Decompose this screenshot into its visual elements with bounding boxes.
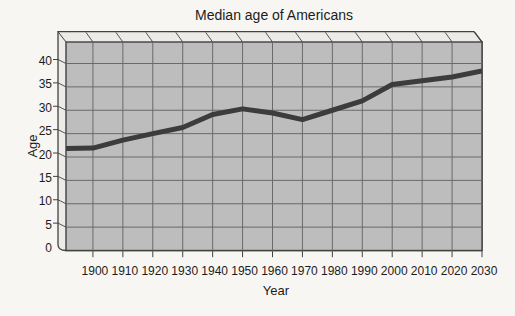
chart-page: 0510152025303540190019101920193019401950… (0, 0, 515, 316)
x-tick-label: 1960 (261, 264, 288, 278)
y-tick-label: 40 (39, 54, 53, 68)
y-tick-label: 20 (39, 148, 53, 162)
x-tick-label: 1950 (231, 264, 258, 278)
x-tick-label: 1920 (141, 264, 168, 278)
x-tick-label: 1900 (82, 264, 109, 278)
y-tick-label: 15 (39, 171, 53, 185)
y-tick-label: 0 (45, 241, 52, 255)
x-tick-label: 1940 (201, 264, 228, 278)
y-tick-label: 35 (39, 77, 53, 91)
x-tick-label: 1990 (351, 264, 378, 278)
y-axis-title: Age (25, 134, 40, 157)
y-tick-label: 10 (39, 194, 53, 208)
y-tick-label: 5 (45, 218, 52, 232)
x-tick-label: 2030 (471, 264, 498, 278)
x-tick-label: 1980 (321, 264, 348, 278)
median-age-line-chart: 0510152025303540190019101920193019401950… (0, 0, 515, 316)
x-tick-label: 2020 (441, 264, 468, 278)
x-tick-label: 2010 (411, 264, 438, 278)
plot-area: 0510152025303540190019101920193019401950… (39, 32, 498, 278)
plot-face (66, 42, 482, 251)
x-tick-label: 2000 (381, 264, 408, 278)
y-tick-label: 30 (39, 101, 53, 115)
y-tick-label: 25 (39, 124, 53, 138)
x-axis-title: Year (263, 283, 290, 298)
chart-title: Median age of Americans (195, 7, 353, 23)
x-tick-label: 1930 (171, 264, 198, 278)
x-tick-label: 1970 (291, 264, 318, 278)
x-tick-label: 1910 (112, 264, 139, 278)
